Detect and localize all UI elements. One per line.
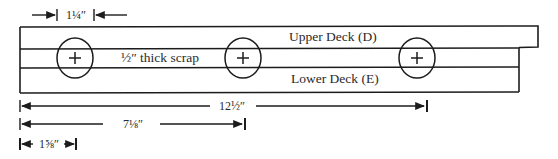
upper-deck-board	[20, 26, 538, 48]
hole-1	[57, 38, 93, 78]
hole-3	[399, 38, 435, 78]
hole-diameter-dimension: 1¼″	[66, 8, 86, 22]
lower-deck-label: Lower Deck (E)	[291, 72, 379, 86]
upper-deck-label: Upper Deck (D)	[289, 30, 377, 44]
dimension-1-5-8-label: 1⅝″	[39, 137, 59, 151]
deck-drilling-diagram	[0, 0, 558, 159]
dimension-7-1-8-label: 7⅛″	[123, 117, 143, 131]
board-outline	[20, 27, 519, 93]
scrap-label: ½″ thick scrap	[121, 51, 199, 65]
dimension-12-5-label: 12½″	[219, 99, 245, 113]
hole-2	[225, 38, 261, 78]
